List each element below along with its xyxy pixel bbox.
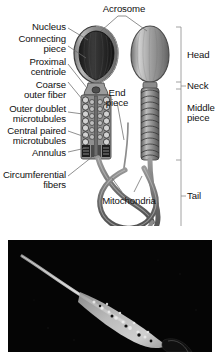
label-nucleus: Nucleus (0, 22, 66, 32)
panel-gap (0, 226, 221, 240)
label-end-piece: End piece (100, 88, 134, 108)
label-neck: Neck (187, 81, 221, 91)
proximal-centriole-shape (92, 87, 100, 93)
sperm-head-whole (131, 26, 169, 82)
sperm-micrograph-panel (8, 240, 212, 352)
label-annulus: Annulus (0, 148, 66, 158)
label-head: Head (187, 50, 221, 60)
label-central-paired-microtubules: Central paired microtubules (0, 126, 66, 146)
sperm-diagram-panel: Nucleus Connecting piece Proximal centri… (0, 0, 221, 236)
label-outer-doublet-microtubules: Outer doublet microtubules (0, 104, 66, 124)
region-brackets (176, 27, 186, 233)
label-tail: Tail (187, 191, 221, 201)
label-connecting-piece: Connecting piece (0, 34, 66, 54)
axoneme-core (95, 96, 98, 156)
micrograph-image (8, 240, 212, 352)
end-piece-shape (124, 123, 128, 168)
label-coarse-outer-fiber: Coarse outer fiber (0, 80, 66, 100)
label-mitochondria: Mitochondria (98, 196, 160, 206)
label-proximal-centriole: Proximal centriole (0, 57, 66, 77)
label-circumferential-fibers: Circumferential fibers (0, 170, 66, 190)
label-middle-piece: Middle piece (187, 103, 221, 123)
micrograph-background (8, 240, 212, 352)
middle-piece-helix (141, 88, 159, 160)
label-acrosome: Acrosome (96, 4, 152, 14)
